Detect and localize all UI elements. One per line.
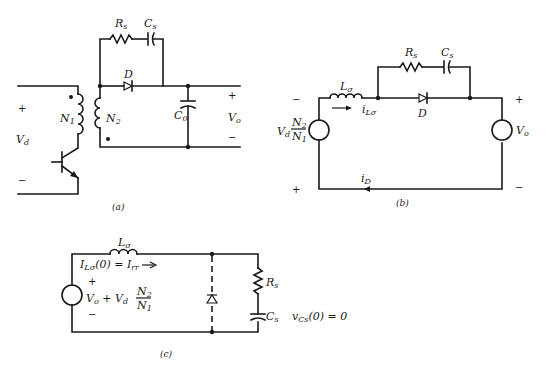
rs-label: Rs xyxy=(404,46,417,60)
ilo-label: iLσ xyxy=(362,103,377,117)
cs-label: Cs xyxy=(266,310,279,324)
voltage-source-icon xyxy=(309,120,329,140)
primary-bottom-wire xyxy=(18,178,78,194)
junction-node xyxy=(210,252,214,256)
cs-label: Cs xyxy=(441,46,454,60)
current-arrow-icon xyxy=(364,186,370,192)
vcs-initial-label: vCs(0) = 0 xyxy=(292,310,347,324)
rs-label: Rs xyxy=(265,276,278,290)
diode-label: D xyxy=(417,107,427,120)
panel-a-flyback-circuit: Rs Cs D N1 N2 C0 Vd Vo + − + − (a) xyxy=(16,17,241,212)
diode-icon xyxy=(419,93,427,103)
rs-resistor-icon xyxy=(110,35,132,43)
collector-wire xyxy=(62,134,78,158)
right-source-label: Vo xyxy=(516,124,529,138)
n1-label: N1 xyxy=(59,112,75,126)
right-plus-sign: + xyxy=(515,94,523,105)
current-arrow-icon xyxy=(142,262,156,268)
snubber-right-wire xyxy=(449,67,470,98)
cs-label: Cs xyxy=(144,17,157,31)
snubber-right-wire xyxy=(153,39,163,86)
top-wire-right xyxy=(427,98,502,120)
bottom-wire xyxy=(72,305,258,332)
id-label: iD xyxy=(361,172,372,186)
secondary-bottom-wire xyxy=(100,128,240,147)
primary-top-wire xyxy=(18,86,78,94)
turns-ratio-numerator: N2 xyxy=(136,285,152,299)
vo-minus-sign: − xyxy=(228,132,236,143)
c0-label: C0 xyxy=(174,109,188,123)
caption-b: (b) xyxy=(396,198,409,208)
snubber-left-wire xyxy=(100,39,110,86)
open-diode-icon xyxy=(206,292,218,304)
turns-ratio-numerator: N2 xyxy=(291,116,307,130)
source-plus-sign: + xyxy=(88,276,96,287)
n2-label: N2 xyxy=(105,112,121,126)
source-voltage-label: Vo + Vd xyxy=(86,292,128,306)
n1-polarity-dot xyxy=(69,95,73,99)
n2-winding-icon xyxy=(95,98,100,128)
rs-label: Rs xyxy=(114,17,127,31)
lo-label: Lσ xyxy=(117,236,131,250)
n2-polarity-dot xyxy=(106,137,110,141)
leakage-inductor-icon xyxy=(110,250,137,254)
vd-minus-sign: − xyxy=(18,175,26,186)
initial-current-label: ILσ(0) = Irr xyxy=(79,258,140,272)
turns-ratio-denominator: N1 xyxy=(136,299,152,313)
caption-a: (a) xyxy=(112,202,125,212)
vo-plus-sign: + xyxy=(228,90,236,101)
left-source-label: Vd xyxy=(277,125,290,139)
voltage-source-icon xyxy=(492,120,512,140)
lo-label: Lσ xyxy=(339,80,353,94)
current-arrow-icon xyxy=(332,106,352,111)
right-minus-sign: − xyxy=(515,182,523,193)
junction-node xyxy=(210,330,214,334)
vo-label: Vo xyxy=(228,111,241,125)
panel-c-reverse-recovery-circuit: Lσ ILσ(0) = Irr + Vo + Vd N2 N1 − Rs Cs … xyxy=(62,236,347,359)
caption-c: (c) xyxy=(160,349,173,359)
panel-b-equivalent-circuit: Lσ iLσ Rs Cs D Vd N2 N1 Vo iD − + + − (b… xyxy=(277,46,529,208)
cs-capacitor-icon xyxy=(251,314,265,320)
leakage-inductor-icon xyxy=(330,94,362,98)
vd-label: Vd xyxy=(16,133,29,147)
rs-resistor-icon xyxy=(400,63,422,71)
diode-label: D xyxy=(123,68,133,81)
voltage-source-icon xyxy=(62,285,82,305)
left-minus-sign: − xyxy=(292,94,300,105)
rs-resistor-icon xyxy=(254,268,262,294)
circuit-figure: Rs Cs D N1 N2 C0 Vd Vo + − + − (a) xyxy=(0,0,546,367)
junction-node xyxy=(468,96,472,100)
turns-ratio-denominator: N1 xyxy=(291,130,307,144)
snubber-left-wire xyxy=(378,67,400,98)
bottom-return-wire xyxy=(319,140,502,189)
n1-winding-icon xyxy=(78,94,83,134)
source-minus-sign: − xyxy=(88,309,96,320)
left-source-top-wire xyxy=(319,98,330,120)
diode-icon xyxy=(124,81,132,91)
vd-plus-sign: + xyxy=(18,103,26,114)
left-plus-sign: + xyxy=(292,184,300,195)
